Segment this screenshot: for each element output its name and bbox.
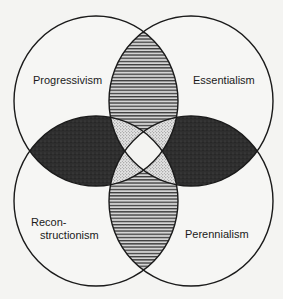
label-reconstructionism-line2: structionism (40, 229, 99, 242)
label-reconstructionism-line1: Recon- (31, 216, 66, 229)
label-progressivism: Progressivism (33, 74, 102, 87)
label-perennialism: Perennialism (185, 228, 249, 241)
label-essentialism: Essentialism (193, 74, 255, 87)
venn-diagram (0, 0, 283, 299)
